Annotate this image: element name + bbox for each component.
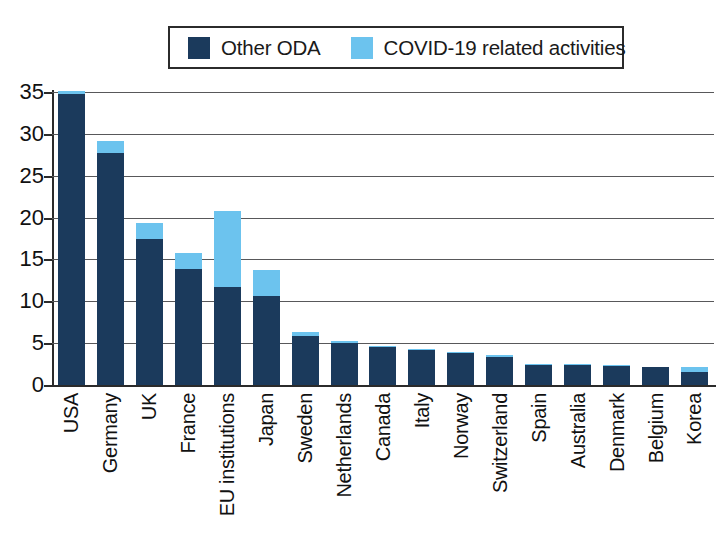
bar-slot: [247, 92, 286, 385]
x-label-slot: Norway: [441, 389, 480, 557]
legend-item-covid: COVID-19 related activities: [351, 36, 626, 60]
x-label-slot: Sweden: [286, 389, 325, 557]
bar-australia[interactable]: [564, 364, 591, 385]
y-tick-35: [44, 92, 52, 94]
x-label-slot: USA: [52, 389, 91, 557]
bar-segment-covid: [253, 270, 280, 296]
x-label-slot: EU institutions: [208, 389, 247, 557]
bar-slot: [675, 92, 714, 385]
x-tick-label-norway: Norway: [449, 393, 472, 459]
bar-segment-other-oda: [642, 367, 669, 385]
bar-slot: [91, 92, 130, 385]
x-tick-label-australia: Australia: [566, 393, 589, 468]
bar-slot: [130, 92, 169, 385]
bar-korea[interactable]: [681, 367, 708, 385]
bar-switzerland[interactable]: [486, 355, 513, 385]
x-label-slot: Japan: [247, 389, 286, 557]
x-tick-label-france: France: [177, 393, 200, 453]
bar-slot: [597, 92, 636, 385]
bar-slot: [636, 92, 675, 385]
y-tick-label-20: 20: [4, 205, 44, 231]
x-tick-label-korea: Korea: [683, 393, 706, 445]
bar-slot: [286, 92, 325, 385]
x-label-slot: Germany: [91, 389, 130, 557]
x-axis-line: [52, 385, 716, 387]
bar-segment-covid: [97, 141, 124, 153]
y-tick-30: [44, 134, 52, 136]
x-label-slot: Switzerland: [480, 389, 519, 557]
bar-slot: [364, 92, 403, 385]
bar-slot: [402, 92, 441, 385]
chart-legend: Other ODA COVID-19 related activities: [168, 26, 624, 69]
x-tick-label-denmark: Denmark: [605, 393, 628, 472]
y-tick-0: [44, 385, 52, 387]
bar-sweden[interactable]: [292, 332, 319, 385]
bar-netherlands[interactable]: [331, 341, 358, 385]
legend-label-other-oda: Other ODA: [221, 36, 321, 60]
bar-segment-other-oda: [58, 94, 85, 385]
x-tick-label-canada: Canada: [371, 393, 394, 461]
bar-norway[interactable]: [447, 352, 474, 385]
bar-segment-other-oda: [136, 239, 163, 386]
y-tick-label-25: 25: [4, 163, 44, 189]
bar-canada[interactable]: [369, 346, 396, 385]
bar-slot: [480, 92, 519, 385]
x-tick-label-eu-institutions: EU institutions: [216, 393, 239, 516]
x-label-slot: Italy: [402, 389, 441, 557]
y-tick-label-0: 0: [4, 372, 44, 398]
x-tick-label-usa: USA: [60, 393, 83, 433]
y-tick-label-35: 35: [4, 79, 44, 105]
y-tick-label-30: 30: [4, 121, 44, 147]
x-label-slot: UK: [130, 389, 169, 557]
x-tick-label-germany: Germany: [99, 393, 122, 473]
bar-belgium[interactable]: [642, 367, 669, 385]
bar-segment-other-oda: [292, 336, 319, 385]
bar-slot: [208, 92, 247, 385]
bar-segment-covid: [175, 253, 202, 270]
bar-france[interactable]: [175, 253, 202, 385]
x-tick-label-japan: Japan: [255, 393, 278, 446]
x-label-slot: Denmark: [597, 389, 636, 557]
bar-segment-other-oda: [525, 365, 552, 385]
bar-italy[interactable]: [408, 349, 435, 385]
x-tick-label-italy: Italy: [410, 393, 433, 428]
bar-segment-other-oda: [253, 296, 280, 385]
y-tick-10: [44, 301, 52, 303]
plot-area: [52, 92, 714, 385]
bar-germany[interactable]: [97, 141, 124, 385]
y-axis-labels: 35302520151050: [0, 92, 44, 385]
bar-slot: [52, 92, 91, 385]
bar-slot: [169, 92, 208, 385]
x-label-slot: Australia: [558, 389, 597, 557]
y-tick-label-10: 10: [4, 288, 44, 314]
bar-group: [52, 92, 714, 385]
x-tick-label-sweden: Sweden: [294, 393, 317, 463]
bar-segment-other-oda: [408, 350, 435, 385]
bar-denmark[interactable]: [603, 365, 630, 385]
bar-segment-other-oda: [564, 365, 591, 385]
x-axis-labels: USAGermanyUKFranceEU institutionsJapanSw…: [52, 389, 714, 557]
bar-segment-covid: [214, 211, 241, 287]
bar-usa[interactable]: [58, 91, 85, 385]
legend-label-covid: COVID-19 related activities: [384, 36, 626, 60]
x-label-slot: France: [169, 389, 208, 557]
bar-uk[interactable]: [136, 223, 163, 385]
bar-segment-other-oda: [603, 366, 630, 385]
x-label-slot: Belgium: [636, 389, 675, 557]
bar-eu-institutions[interactable]: [214, 211, 241, 385]
bar-slot: [325, 92, 364, 385]
y-tick-25: [44, 176, 52, 178]
bar-segment-other-oda: [97, 153, 124, 385]
x-tick-label-netherlands: Netherlands: [333, 393, 356, 498]
bar-segment-other-oda: [331, 343, 358, 385]
x-tick-label-switzerland: Switzerland: [488, 393, 511, 493]
bar-slot: [519, 92, 558, 385]
bar-japan[interactable]: [253, 270, 280, 385]
bar-spain[interactable]: [525, 364, 552, 385]
x-label-slot: Spain: [519, 389, 558, 557]
x-label-slot: Korea: [675, 389, 714, 557]
bar-segment-other-oda: [175, 269, 202, 385]
y-tick-15: [44, 259, 52, 261]
legend-swatch-other-oda: [188, 37, 210, 59]
bar-slot: [441, 92, 480, 385]
